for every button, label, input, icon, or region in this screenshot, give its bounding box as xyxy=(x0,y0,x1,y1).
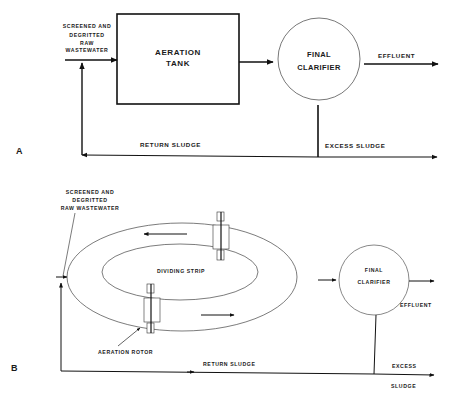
final-clarifier-label-b: FINAL xyxy=(365,267,384,273)
aeration-rotor-top xyxy=(213,212,229,260)
return-sludge-arrow-a xyxy=(82,155,318,157)
svg-text:RAW WASTEWATER: RAW WASTEWATER xyxy=(61,205,120,211)
excess-sludge-label-b: EXCESS xyxy=(392,363,417,369)
svg-text:WASTEWATER: WASTEWATER xyxy=(66,47,109,53)
svg-text:TANK: TANK xyxy=(166,59,190,68)
return-sludge-line-b xyxy=(61,371,374,374)
aeration-tank-label: AERATION xyxy=(155,48,201,57)
svg-text:RAW: RAW xyxy=(80,40,94,46)
svg-text:CLARIFIER: CLARIFIER xyxy=(297,63,341,72)
panel-label-b: B xyxy=(11,363,18,373)
dividing-strip-label: DIVIDING STRIP xyxy=(157,268,205,274)
excess-sludge-label-a: EXCESS SLUDGE xyxy=(325,142,385,149)
aeration-rotor-pointer xyxy=(118,328,140,346)
panel-label-a: A xyxy=(16,146,23,156)
return-sludge-label-b: RETURN SLUDGE xyxy=(203,361,255,367)
aeration-rotor-bottom xyxy=(144,284,160,333)
diagram-a: A SCREENED AND DEGRITTED RAW WASTEWATER … xyxy=(16,14,438,157)
return-sludge-label-a: RETURN SLUDGE xyxy=(140,141,201,148)
final-clarifier-label-a: FINAL xyxy=(307,50,331,59)
svg-text:DEGRITTED: DEGRITTED xyxy=(69,32,104,38)
svg-text:SLUDGE: SLUDGE xyxy=(391,383,416,389)
sludge-drop-line-b xyxy=(374,315,376,374)
diagram-b: B SCREENED AND DEGRITTED RAW WASTEWATER … xyxy=(11,189,434,389)
effluent-label-b: EFFLUENT xyxy=(400,302,432,308)
effluent-label-a: EFFLUENT xyxy=(378,52,415,59)
aeration-rotor-label: AERATION ROTOR xyxy=(98,349,153,355)
excess-sludge-arrow-b xyxy=(374,374,434,375)
influent-label-b: SCREENED AND DEGRITTED RAW WASTEWATER xyxy=(61,189,120,211)
process-diagrams: A SCREENED AND DEGRITTED RAW WASTEWATER … xyxy=(0,0,451,393)
svg-text:SCREENED AND: SCREENED AND xyxy=(66,189,115,195)
svg-text:SCREENED AND: SCREENED AND xyxy=(63,23,112,29)
influent-label-a: SCREENED AND DEGRITTED RAW WASTEWATER xyxy=(63,23,112,53)
final-clarifier-a xyxy=(278,18,360,100)
oxidation-ditch-outer xyxy=(67,223,297,331)
svg-text:DEGRITTED: DEGRITTED xyxy=(72,197,107,203)
svg-text:CLARIFIER: CLARIFIER xyxy=(357,279,390,285)
